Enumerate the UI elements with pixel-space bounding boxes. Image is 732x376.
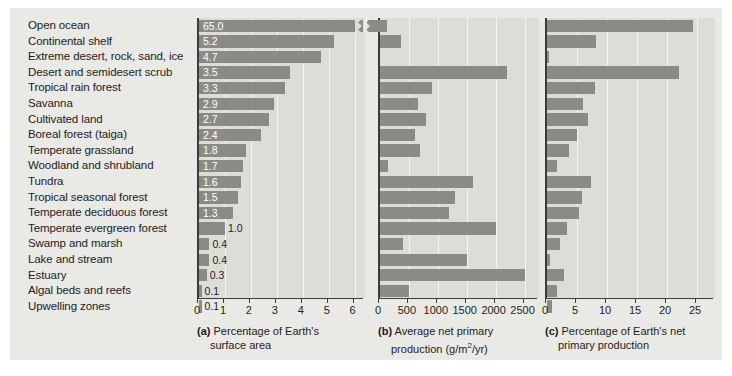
- bar-value-label: 0.1: [205, 285, 220, 297]
- axis-tick: [523, 298, 524, 303]
- panel-b-caption-line2: production (g/m2/yr): [378, 339, 548, 356]
- axis-tick: [635, 298, 636, 303]
- bar-value-label: 5.2: [203, 35, 218, 47]
- bar-row: 4.7: [199, 49, 365, 65]
- bar-value-label: 1.7: [203, 160, 218, 172]
- panel-c-caption-line2: primary production: [545, 339, 725, 353]
- axis-tick: [301, 298, 302, 303]
- axis-tick: [275, 298, 276, 303]
- bar-row: 65.0: [199, 18, 365, 34]
- bar-row: 1.7: [199, 158, 365, 174]
- category-label: Tropical seasonal forest: [28, 190, 196, 206]
- axis-tick-label: 15: [629, 304, 641, 316]
- bar-row: [380, 283, 539, 299]
- bar: [380, 129, 415, 141]
- axis-tick: [407, 298, 408, 303]
- axis-tick: [197, 298, 198, 303]
- bar-value-label: 4.7: [203, 51, 218, 63]
- bar-row: 0.4: [199, 252, 365, 268]
- category-label: Lake and stream: [28, 252, 196, 268]
- bar: [547, 35, 596, 47]
- bar: [380, 35, 401, 47]
- bar-row: [547, 65, 715, 81]
- bar-value-label: 3.3: [203, 82, 218, 94]
- bar: [380, 176, 473, 188]
- bar: [547, 269, 564, 281]
- bar-row: [380, 34, 539, 50]
- bar: [199, 238, 209, 250]
- bar: [547, 144, 569, 156]
- axis-tick-label: 4: [298, 304, 304, 316]
- bar: [380, 144, 420, 156]
- bar-row: [547, 158, 715, 174]
- bar-value-label: 3.5: [203, 66, 218, 78]
- panel-c-caption-line1: Percentage of Earth's net: [562, 325, 686, 337]
- panel-b-net-primary-production: [378, 18, 539, 298]
- panel-a-caption-line1: Percentage of Earth's: [214, 325, 319, 337]
- panel-a-bars: 65.05.24.73.53.32.92.72.41.81.71.61.51.3…: [199, 18, 365, 298]
- bar-row: 1.6: [199, 174, 365, 190]
- panel-b-caption-units-a: production (g/m: [391, 342, 467, 354]
- bar-row: 1.8: [199, 143, 365, 159]
- bar-row: [547, 18, 715, 34]
- bar: [547, 82, 595, 94]
- bar: [199, 269, 207, 281]
- bar-row: [380, 190, 539, 206]
- panel-a-caption-line2: surface area: [197, 339, 367, 353]
- bar-row: [547, 190, 715, 206]
- bar-row: 3.3: [199, 80, 365, 96]
- bar-row: [380, 252, 539, 268]
- bar: [199, 20, 363, 32]
- category-label: Tundra: [28, 174, 196, 190]
- bar-row: [547, 112, 715, 128]
- category-label: Swamp and marsh: [28, 236, 196, 252]
- bar-value-label: 65.0: [203, 20, 223, 32]
- bar-row: [547, 96, 715, 112]
- bar-value-label: 0.4: [212, 254, 227, 266]
- bar-row: 0.3: [199, 268, 365, 284]
- bar-row: [380, 127, 539, 143]
- category-label: Temperate deciduous forest: [28, 205, 196, 221]
- axis-tick-label: 20: [659, 304, 671, 316]
- bar: [547, 254, 550, 266]
- bar-value-label: 2.7: [203, 113, 218, 125]
- axis-tick: [353, 298, 354, 303]
- bar-row: 2.4: [199, 127, 365, 143]
- axis-tick-label: 10: [599, 304, 611, 316]
- bar: [547, 51, 549, 63]
- bar-row: [547, 127, 715, 143]
- bar-row: [547, 49, 715, 65]
- category-label: Extreme desert, rock, sand, ice: [28, 49, 196, 65]
- axis-tick: [605, 298, 606, 303]
- bar: [547, 160, 557, 172]
- bar-value-label: 1.0: [228, 222, 243, 234]
- bar: [380, 20, 387, 32]
- bar-value-label: 1.5: [203, 191, 218, 203]
- panel-b-bars: [380, 18, 539, 298]
- bar-row: [380, 65, 539, 81]
- category-label: Cultivated land: [28, 112, 196, 128]
- category-label: Boreal forest (taiga): [28, 127, 196, 143]
- category-label: Temperate grassland: [28, 143, 196, 159]
- category-label: Temperate evergreen forest: [28, 221, 196, 237]
- panel-a-surface-area: 65.05.24.73.53.32.92.72.41.81.71.61.51.3…: [197, 18, 365, 298]
- bar: [199, 254, 209, 266]
- bar-value-label: 0.3: [210, 269, 225, 281]
- category-label: Woodland and shrubland: [28, 158, 196, 174]
- bar-row: [380, 158, 539, 174]
- category-label: Continental shelf: [28, 34, 196, 50]
- figure-npp-biomes: Open oceanContinental shelfExtreme deser…: [0, 0, 732, 376]
- bar-row: 2.9: [199, 96, 365, 112]
- bar-value-label: 1.3: [203, 207, 218, 219]
- category-label: Upwelling zones: [28, 299, 196, 315]
- axis-tick: [327, 298, 328, 303]
- bar-row: [380, 18, 539, 34]
- bar-row: [380, 96, 539, 112]
- bar-value-label: 2.9: [203, 98, 218, 110]
- bar: [547, 191, 582, 203]
- bar-row: [380, 143, 539, 159]
- axis-tick: [665, 298, 666, 303]
- bar-row: [547, 174, 715, 190]
- bar: [380, 82, 432, 94]
- bar: [547, 20, 693, 32]
